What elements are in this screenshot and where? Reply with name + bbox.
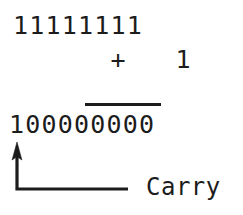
carry-pointer-arrow-icon bbox=[0, 130, 160, 200]
addend-row: + 1 bbox=[13, 47, 192, 72]
carry-label: Carry bbox=[146, 175, 221, 199]
binary-addition-figure: 11111111 + 1 100000000 Carry bbox=[0, 0, 243, 215]
sum-rule-divider bbox=[85, 103, 161, 106]
augend-row: 11111111 bbox=[13, 13, 143, 38]
